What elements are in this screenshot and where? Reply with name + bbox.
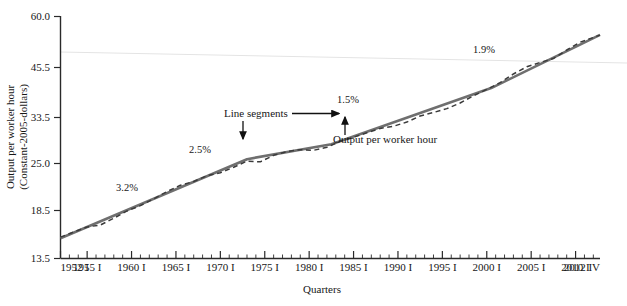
chart-canvas: 60.0 45.5 33.5 25.0 18.5 13.5 1952 I1955… <box>0 0 627 306</box>
annotation-growth-1-5: 1.5% <box>337 94 359 105</box>
y-tick-label-25: 25.0 <box>31 157 51 169</box>
x-tick-label: 1970 I <box>206 261 235 273</box>
x-tick-label: 1960 I <box>117 261 146 273</box>
x-tick-label: 1975 I <box>251 261 280 273</box>
chart-figure: 60.0 45.5 33.5 25.0 18.5 13.5 1952 I1955… <box>0 0 627 306</box>
y-tick-label-33: 33.5 <box>31 111 51 123</box>
trend-line-segments <box>61 35 601 238</box>
annotation-output-label: Output per worker hour <box>333 133 438 145</box>
annotation-growth-1-9: 1.9% <box>473 44 495 55</box>
annotation-text-group: 3.2% 2.5% 1.5% 1.9% Line segments Output… <box>116 44 495 193</box>
x-tick-label: 1990 I <box>384 261 413 273</box>
x-tick-label: 1985 I <box>339 261 368 273</box>
output-per-worker-hour-line <box>61 35 601 237</box>
axis-group <box>61 16 601 259</box>
x-tick-label: 2000 I <box>473 261 502 273</box>
x-tick-label: 2012 IV <box>564 261 600 273</box>
y-tick-label-13: 13.5 <box>31 252 51 264</box>
annotation-line-segments-label: Line segments <box>224 107 288 119</box>
annotation-growth-3-2: 3.2% <box>116 182 138 193</box>
x-tick-label: 1955 I <box>73 261 102 273</box>
y-axis-title-line1: Output per worker hour <box>4 85 16 190</box>
y-axis-title-line2: (Constant-2005-dollars) <box>17 84 30 190</box>
annotation-growth-2-5: 2.5% <box>189 144 211 155</box>
x-tick-label-group: 1952 I1955 I1960 I1965 I1970 I1975 I1980… <box>61 261 601 273</box>
y-tick-group: 60.0 45.5 33.5 25.0 18.5 13.5 <box>31 10 60 264</box>
y-tick-label-60: 60.0 <box>31 10 51 22</box>
y-tick-label-45: 45.5 <box>31 61 51 73</box>
faint-artifact-line <box>60 52 627 63</box>
x-tick-label: 1980 I <box>295 261 324 273</box>
x-tick-group <box>61 251 594 259</box>
x-tick-label: 1995 I <box>428 261 457 273</box>
x-tick-label: 2005 I <box>517 261 546 273</box>
series-group <box>61 35 601 238</box>
x-axis-title: Quarters <box>303 283 341 295</box>
y-tick-label-18: 18.5 <box>31 204 51 216</box>
x-tick-label: 1965 I <box>162 261 191 273</box>
